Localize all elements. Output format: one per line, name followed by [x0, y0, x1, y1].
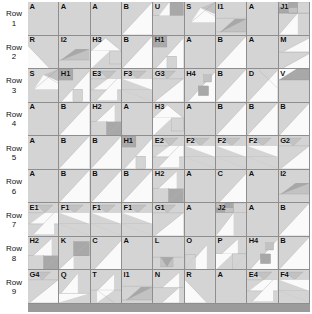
quilt-cell-a[interactable]: A: [185, 103, 216, 137]
quilt-block-art-half-diag-light: [216, 103, 246, 136]
quilt-block-art-plain: [185, 103, 215, 136]
quilt-cell-v[interactable]: V: [279, 69, 310, 103]
quilt-block-art-h3-block: [153, 103, 183, 136]
quilt-block-art-j2-block: [216, 203, 246, 236]
quilt-cell-h2[interactable]: H2: [153, 170, 184, 204]
quilt-cell-g4[interactable]: G4: [28, 270, 59, 304]
quilt-cell-a[interactable]: A: [185, 203, 216, 237]
quilt-cell-b[interactable]: B: [279, 203, 310, 237]
quilt-cell-a[interactable]: A: [122, 237, 153, 271]
quilt-cell-h1[interactable]: H1: [122, 136, 153, 170]
quilt-cell-f2[interactable]: F2: [247, 136, 278, 170]
quilt-block-art-g3-block: [153, 69, 183, 102]
quilt-block-art-c-block: [216, 170, 246, 203]
quilt-cell-i2[interactable]: I2: [279, 170, 310, 204]
quilt-cell-i2[interactable]: I2: [59, 36, 90, 70]
quilt-cell-b[interactable]: B: [122, 36, 153, 70]
quilt-cell-c[interactable]: C: [216, 170, 247, 204]
quilt-block-art-h2-block: [153, 170, 183, 203]
quilt-block-art-plain: [122, 237, 152, 270]
quilt-cell-j2[interactable]: J2: [216, 203, 247, 237]
quilt-cell-f1[interactable]: F1: [122, 203, 153, 237]
quilt-cell-a[interactable]: A: [185, 36, 216, 70]
quilt-cell-c[interactable]: C: [91, 237, 122, 271]
quilt-cell-u[interactable]: U: [153, 2, 184, 36]
quilt-cell-a[interactable]: A: [28, 136, 59, 170]
quilt-cell-b[interactable]: B: [122, 2, 153, 36]
quilt-block-art-half-diag-light: [216, 69, 246, 102]
quilt-cell-h2[interactable]: H2: [91, 103, 122, 137]
quilt-cell-g2[interactable]: G2: [279, 136, 310, 170]
quilt-cell-b[interactable]: B: [91, 136, 122, 170]
quilt-cell-a[interactable]: A: [247, 170, 278, 204]
quilt-cell-b[interactable]: B: [279, 237, 310, 271]
quilt-block-art-d-block: [247, 69, 277, 102]
quilt-cell-e4[interactable]: E4: [247, 270, 278, 304]
quilt-cell-f1[interactable]: F1: [91, 203, 122, 237]
quilt-cell-h3[interactable]: H3: [153, 103, 184, 137]
quilt-cell-e1[interactable]: E1: [28, 203, 59, 237]
row-label-4: Row4: [0, 103, 28, 137]
quilt-cell-e3[interactable]: E3: [91, 69, 122, 103]
quilt-cell-p[interactable]: P: [216, 237, 247, 271]
quilt-cell-i1[interactable]: I1: [122, 270, 153, 304]
quilt-cell-a[interactable]: A: [185, 170, 216, 204]
quilt-cell-t[interactable]: T: [91, 270, 122, 304]
quilt-cell-a[interactable]: A: [247, 36, 278, 70]
quilt-cell-a[interactable]: A: [28, 170, 59, 204]
quilt-cell-h1[interactable]: H1: [59, 69, 90, 103]
quilt-cell-r[interactable]: R: [185, 270, 216, 304]
quilt-cell-a[interactable]: A: [122, 103, 153, 137]
quilt-cell-a[interactable]: A: [216, 270, 247, 304]
quilt-cell-a[interactable]: A: [28, 103, 59, 137]
quilt-cell-i1[interactable]: I1: [216, 2, 247, 36]
quilt-cell-h4[interactable]: H4: [247, 237, 278, 271]
quilt-cell-o[interactable]: O: [185, 237, 216, 271]
quilt-cell-b[interactable]: B: [122, 170, 153, 204]
quilt-cell-n[interactable]: N: [153, 270, 184, 304]
quilt-cell-b[interactable]: B: [59, 103, 90, 137]
quilt-cell-b[interactable]: B: [59, 170, 90, 204]
quilt-cell-g3[interactable]: G3: [153, 69, 184, 103]
quilt-cell-a[interactable]: A: [91, 2, 122, 36]
quilt-cell-a[interactable]: A: [59, 2, 90, 36]
quilt-cell-b[interactable]: B: [216, 103, 247, 137]
quilt-cell-f3[interactable]: F3: [122, 69, 153, 103]
quilt-cell-b[interactable]: B: [216, 36, 247, 70]
quilt-cell-f2[interactable]: F2: [216, 136, 247, 170]
quilt-cell-s[interactable]: S: [28, 69, 59, 103]
quilt-cell-b[interactable]: B: [91, 170, 122, 204]
quilt-cell-f4[interactable]: F4: [279, 270, 310, 304]
quilt-block-art-f2-block: [185, 136, 215, 169]
row-label-word: Row: [6, 278, 22, 288]
quilt-cell-f1[interactable]: F1: [59, 203, 90, 237]
quilt-block-art-r-block: [185, 270, 215, 303]
quilt-cell-a[interactable]: A: [28, 2, 59, 36]
quilt-cell-h4[interactable]: H4: [185, 69, 216, 103]
quilt-block-art-half-diag-light: [91, 136, 121, 169]
quilt-cell-r[interactable]: R: [28, 36, 59, 70]
quilt-cell-h1[interactable]: H1: [153, 36, 184, 70]
quilt-cell-l[interactable]: L: [153, 237, 184, 271]
quilt-cell-b[interactable]: B: [279, 103, 310, 137]
quilt-cell-m[interactable]: M: [279, 36, 310, 70]
quilt-cell-g1[interactable]: G1: [153, 203, 184, 237]
quilt-block-art-half-diag-light: [122, 170, 152, 203]
quilt-cell-a[interactable]: A: [247, 203, 278, 237]
quilt-cell-a[interactable]: A: [247, 2, 278, 36]
quilt-cell-d[interactable]: D: [247, 69, 278, 103]
quilt-block-art-f1-block: [122, 203, 152, 236]
quilt-cell-b[interactable]: B: [247, 103, 278, 137]
quilt-cell-b[interactable]: B: [59, 136, 90, 170]
quilt-cell-q[interactable]: Q: [59, 270, 90, 304]
quilt-cell-h3[interactable]: H3: [91, 36, 122, 70]
quilt-cell-h2[interactable]: H2: [28, 237, 59, 271]
quilt-cell-s[interactable]: S: [185, 2, 216, 36]
quilt-cell-j1[interactable]: J1: [279, 2, 310, 36]
quilt-cell-e2[interactable]: E2: [153, 136, 184, 170]
quilt-cell-b[interactable]: B: [216, 69, 247, 103]
quilt-block-art-j1-block: [279, 2, 309, 35]
quilt-cell-f2[interactable]: F2: [185, 136, 216, 170]
quilt-cell-k[interactable]: K: [59, 237, 90, 271]
quilt-block-art-half-diag-light: [279, 237, 309, 270]
